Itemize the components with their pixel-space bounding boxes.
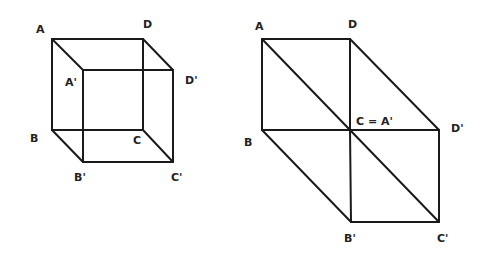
vertex-label: A	[255, 20, 264, 33]
vertex-label: C = A'	[356, 115, 393, 128]
edge-C-C'	[350, 130, 439, 222]
vertex-label: B'	[344, 232, 356, 245]
vertex-label: C'	[171, 171, 182, 184]
cube-projection-figure: ADC = A'D'BB'C'	[244, 18, 464, 245]
edge-C-C'	[143, 130, 173, 162]
vertex-label: D'	[185, 74, 198, 87]
edge-B-B'	[262, 130, 351, 222]
vertex-label: D'	[451, 122, 464, 135]
vertex-label: C	[133, 134, 141, 147]
edge-D-D'	[143, 39, 173, 70]
cube-perspective-figure: ADA'D'BCB'C'	[30, 18, 198, 184]
vertex-label: B	[244, 136, 252, 149]
vertex-label: D	[143, 18, 152, 31]
vertex-label: A'	[65, 76, 77, 89]
vertex-label: B	[30, 132, 38, 145]
vertex-label: C'	[437, 232, 448, 245]
edge-C-B'	[350, 130, 351, 222]
vertex-label: A	[36, 23, 45, 36]
edge-B-B'	[52, 130, 83, 162]
vertex-label: D	[348, 18, 357, 31]
cube-diagrams: ADA'D'BCB'C' ADC = A'D'BB'C'	[0, 0, 491, 260]
edge-A-C	[262, 39, 350, 130]
vertex-label: B'	[74, 171, 86, 184]
edge-A-A'	[52, 39, 83, 70]
